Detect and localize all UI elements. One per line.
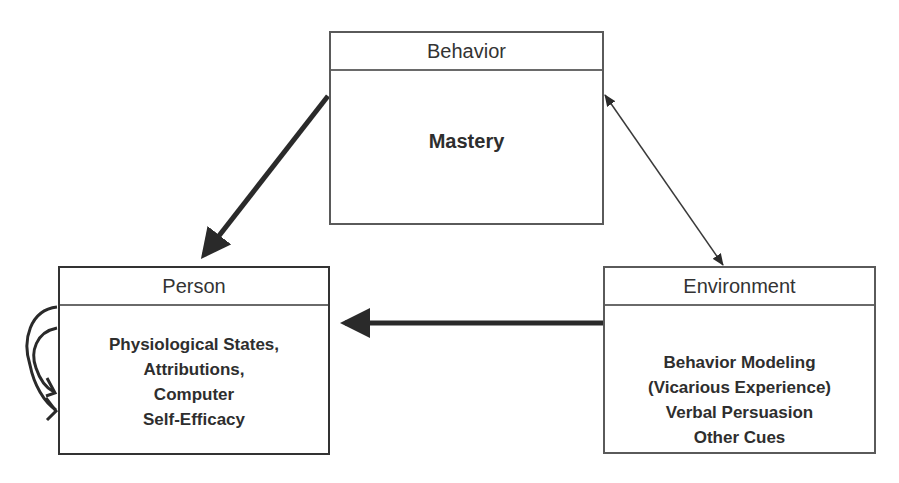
environment-content-line: Other Cues	[605, 425, 874, 450]
person-content-line: Self-Efficacy	[60, 407, 328, 432]
behavior-box: Behavior Mastery	[329, 31, 604, 225]
behavior-box-title: Behavior	[331, 33, 602, 71]
arrow-behavior-to-person	[204, 96, 328, 255]
person-box-title: Person	[60, 268, 328, 306]
environment-box-content: Behavior Modeling (Vicarious Experience)…	[605, 350, 874, 450]
environment-content-line: Behavior Modeling	[605, 350, 874, 375]
person-box: Person Physiological States, Attribution…	[58, 266, 330, 455]
environment-content-line: Verbal Persuasion	[605, 400, 874, 425]
environment-box: Environment Behavior Modeling (Vicarious…	[603, 266, 876, 454]
person-content-line: Physiological States,	[60, 332, 328, 357]
environment-content-line: (Vicarious Experience)	[605, 375, 874, 400]
person-box-content: Physiological States, Attributions, Comp…	[60, 332, 328, 432]
arrow-behavior-environment-bidirectional	[605, 95, 723, 265]
person-content-line: Computer	[60, 382, 328, 407]
person-self-loop-arrow	[27, 307, 57, 420]
environment-box-title: Environment	[605, 268, 874, 306]
behavior-content-line: Mastery	[331, 129, 602, 154]
person-content-line: Attributions,	[60, 357, 328, 382]
behavior-box-content: Mastery	[331, 129, 602, 154]
